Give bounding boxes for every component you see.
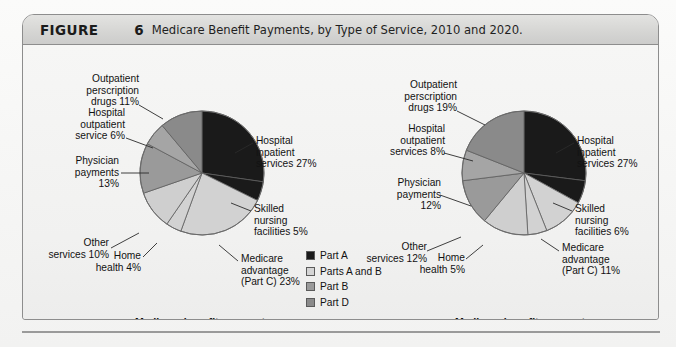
- label-hospital-outpatient-2020: Hospital outpatient services 8%: [349, 123, 445, 158]
- figure-header: FIGURE 6 Medicare Benefit Payments, by T…: [23, 15, 658, 45]
- figure-title: Medicare Benefit Payments, by Type of Se…: [152, 23, 523, 37]
- caption-2020-line1: Medicare benefit payments: [421, 316, 625, 319]
- label-skilled-nursing-2020: Skilled nursing facilities 6%: [575, 203, 653, 238]
- figure-label: FIGURE: [40, 22, 98, 38]
- label-physician-payments-2020: Physician payments 12%: [353, 177, 441, 212]
- figure-body: Outpatient perscription drugs 11% Hospit…: [23, 45, 658, 319]
- leader-lines-2020: [23, 45, 658, 319]
- label-hospital-inpatient-2020: Hospital inpatient services 27%: [577, 135, 657, 170]
- figure-number: 6: [134, 22, 143, 38]
- page-divider-rule: [22, 331, 660, 333]
- label-medicare-advantage-2020: Medicare advantage (Part C) 11%: [562, 242, 646, 277]
- charts-container: Outpatient perscription drugs 11% Hospit…: [23, 45, 658, 319]
- figure-page: FIGURE 6 Medicare Benefit Payments, by T…: [0, 0, 676, 347]
- caption-2020: Medicare benefit payments 2020 = $914 bi…: [421, 291, 625, 319]
- label-home-health-2020: Home health 5%: [393, 252, 465, 275]
- label-outpatient-drugs-2020: Outpatient perscription drugs 19%: [361, 79, 457, 114]
